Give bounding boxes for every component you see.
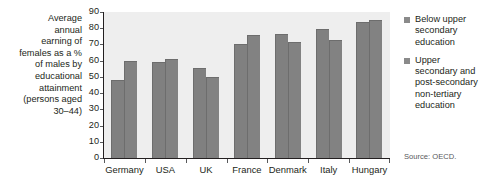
y-tick-label: 50 [89, 72, 99, 81]
bar-group [356, 12, 382, 158]
y-tick-label: 90 [89, 7, 99, 16]
legend-swatch-icon [404, 58, 410, 64]
x-axis-label: Hungary [349, 164, 390, 175]
x-tick-mark [308, 159, 309, 163]
bar [275, 34, 288, 158]
plot-area: 0102030405060708090 GermanyUSAUKFranceDe… [84, 12, 390, 188]
x-tick-mark [186, 159, 187, 163]
bar [152, 62, 165, 158]
legend-label: Below upper secondary education [415, 14, 484, 48]
bar [165, 59, 178, 158]
x-axis-labels: GermanyUSAUKFranceDenmarkItalyHungary [104, 164, 390, 175]
chart-axis-caption: Averageannualearning offemales as a %of … [4, 13, 82, 117]
legend-label: Upper secondary and post-secondary non-t… [415, 55, 484, 111]
bar-group [316, 12, 342, 158]
x-axis-label: France [227, 164, 268, 175]
x-tick-mark [227, 159, 228, 163]
caption-line: 30–44) [4, 106, 82, 118]
y-tick-label: 10 [89, 137, 99, 146]
caption-line: Average [4, 13, 82, 25]
x-tick-mark [267, 159, 268, 163]
bar [247, 35, 260, 158]
caption-line: earning of [4, 36, 82, 48]
bar-group [193, 12, 219, 158]
caption-line: attainment [4, 83, 82, 95]
chart-legend: Below upper secondary educationUpper sec… [404, 14, 484, 118]
x-axis-label: Italy [308, 164, 349, 175]
bar [111, 80, 124, 158]
legend-swatch-icon [404, 17, 410, 23]
bar [193, 68, 206, 158]
y-tick-label: 20 [89, 121, 99, 130]
chart-figure: Averageannualearning offemales as a %of … [0, 0, 484, 188]
caption-line: annual [4, 25, 82, 37]
bar [329, 40, 342, 158]
source-note: Source: OECD. [404, 152, 456, 161]
x-axis-label: Denmark [267, 164, 308, 175]
x-axis-label: USA [145, 164, 186, 175]
bar-groups [104, 12, 390, 158]
bar-group [111, 12, 137, 158]
legend-entry[interactable]: Below upper secondary education [404, 14, 484, 48]
y-tick-label: 70 [89, 40, 99, 49]
bar [234, 44, 247, 158]
bar-group [275, 12, 301, 158]
x-tick-mark [349, 159, 350, 163]
x-tick-mark [389, 159, 390, 163]
bar-group [234, 12, 260, 158]
bar [369, 20, 382, 158]
caption-line: of males by [4, 59, 82, 71]
x-tick-mark [145, 159, 146, 163]
bar [356, 22, 369, 158]
bar [288, 42, 301, 158]
legend-entry[interactable]: Upper secondary and post-secondary non-t… [404, 55, 484, 111]
y-tick-label: 30 [89, 105, 99, 114]
bar [124, 61, 137, 158]
x-axis-label: Germany [104, 164, 145, 175]
bar [206, 77, 219, 158]
caption-line: females as a % [4, 48, 82, 60]
x-tick-mark [104, 159, 105, 163]
y-tick-label: 60 [89, 56, 99, 65]
y-axis: 0102030405060708090 [84, 12, 103, 158]
caption-line: (persons aged [4, 94, 82, 106]
bar [316, 29, 329, 158]
y-tick-label: 40 [89, 89, 99, 98]
x-axis-ticks [104, 159, 390, 163]
bar-group [152, 12, 178, 158]
caption-line: educational [4, 71, 82, 83]
y-tick-label: 0 [94, 153, 99, 162]
y-tick-label: 80 [89, 24, 99, 33]
x-axis-label: UK [186, 164, 227, 175]
